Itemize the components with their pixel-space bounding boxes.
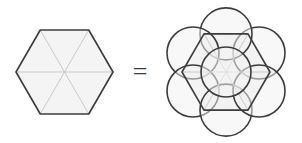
right-figure-hexagon-with-seven-circles — [167, 8, 285, 136]
equals-operator: = — [128, 58, 152, 86]
left-figure-hexagon-with-six-triangles — [16, 30, 113, 114]
right-center-circle — [201, 47, 251, 97]
diagram-canvas: = — [0, 0, 302, 143]
